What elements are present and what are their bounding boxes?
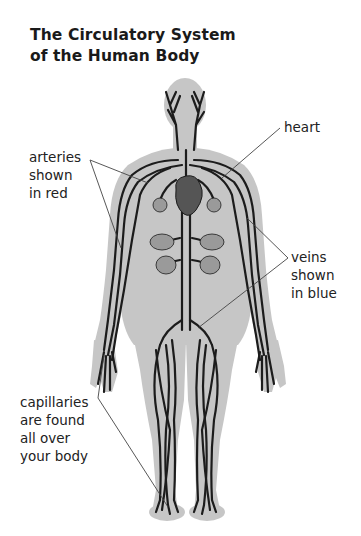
label-arteries-line-2: shown	[29, 166, 81, 184]
label-capillaries-line-2: are found	[20, 411, 88, 429]
label-heart: heart	[284, 118, 320, 136]
label-arteries: arteries shown in red	[29, 148, 81, 202]
label-capillaries-line-4: your body	[20, 447, 88, 465]
label-capillaries-line-1: capillaries	[20, 393, 88, 411]
body-silhouette	[90, 78, 286, 521]
label-arteries-line-3: in red	[29, 184, 81, 202]
label-veins-line-1: veins	[291, 248, 337, 266]
label-veins-line-3: in blue	[291, 284, 337, 302]
label-veins-line-2: shown	[291, 266, 337, 284]
label-heart-line-1: heart	[284, 118, 320, 136]
label-veins: veins shown in blue	[291, 248, 337, 302]
label-arteries-line-1: arteries	[29, 148, 81, 166]
label-capillaries-line-3: all over	[20, 429, 88, 447]
label-capillaries: capillaries are found all over your body	[20, 393, 88, 465]
